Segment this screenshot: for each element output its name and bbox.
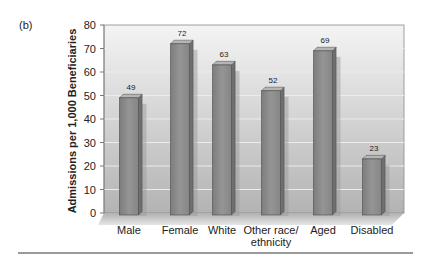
bar-side [232, 61, 236, 215]
x-category-label: ethnicity [251, 236, 292, 248]
data-label: 23 [370, 144, 379, 153]
bar-top [363, 155, 386, 159]
bar-front [171, 44, 190, 215]
bar-side [281, 87, 285, 215]
data-label: 52 [269, 76, 278, 85]
y-tick-label: 40 [84, 113, 96, 125]
bar-front [363, 159, 382, 215]
bar-top [314, 47, 337, 51]
data-label: 72 [178, 29, 187, 38]
x-category-label: White [208, 224, 236, 236]
y-tick-label: 10 [84, 184, 96, 196]
bar-chart: 01020304050607080 49Male72Female63White5… [0, 0, 427, 260]
bar-front [213, 65, 232, 215]
x-category-label: Disabled [351, 224, 394, 236]
bar-front [262, 91, 281, 215]
bar-front [314, 51, 333, 215]
y-tick-label: 60 [84, 66, 96, 78]
y-tick-label: 20 [84, 160, 96, 172]
bottom-divider [18, 252, 413, 254]
y-tick-label: 70 [84, 43, 96, 55]
bar-side [139, 94, 143, 215]
bar [262, 87, 289, 216]
bar [314, 47, 341, 216]
x-category-label: Male [117, 224, 141, 236]
bar-top [171, 40, 194, 44]
data-label: 49 [127, 83, 136, 92]
bar-top [262, 87, 285, 91]
bar-front [120, 98, 139, 215]
y-tick-label: 80 [84, 19, 96, 31]
y-tick-label: 50 [84, 90, 96, 102]
x-category-label: Other race/ [243, 224, 299, 236]
data-label: 63 [220, 50, 229, 59]
y-axis-label: Admissions per 1,000 Beneficiaries [66, 29, 78, 214]
bar [120, 94, 147, 216]
y-axis: 01020304050607080 [84, 19, 104, 219]
x-category-label: Female [162, 224, 199, 236]
data-label: 69 [321, 36, 330, 45]
y-tick-label: 0 [90, 207, 96, 219]
bar [171, 40, 198, 216]
y-tick-label: 30 [84, 137, 96, 149]
bar-side [333, 47, 337, 215]
bar-top [120, 94, 143, 98]
bar-side [190, 40, 194, 215]
bar-side [382, 155, 386, 215]
x-category-label: Aged [310, 224, 336, 236]
bar [213, 61, 240, 216]
bar-top [213, 61, 236, 65]
